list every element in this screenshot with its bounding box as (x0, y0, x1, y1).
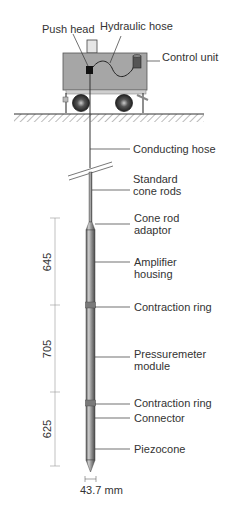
push-head (86, 66, 93, 74)
dim-625: 625 (41, 420, 53, 438)
label-piezocone: Piezocone (134, 443, 185, 455)
label-cone-rod-adaptor-2: adaptor (134, 224, 172, 236)
standard-cone-rods (89, 172, 92, 222)
label-cone-rod-adaptor-1: Cone rod (134, 212, 179, 224)
wheel-left (73, 95, 90, 112)
label-connector: Connector (134, 412, 185, 424)
label-control-unit: Control unit (162, 51, 218, 63)
dim-705: 705 (41, 340, 53, 358)
ground (14, 114, 204, 122)
label-pressuremeter-module-1: Pressuremeter (134, 348, 206, 360)
label-standard-cone-rods-1: Standard (133, 173, 178, 185)
push-head-top (87, 40, 97, 53)
label-contraction-ring-lower: Contraction ring (134, 397, 212, 409)
diagram-canvas: Push head Hydraulic hose Control unit Co… (0, 0, 225, 508)
dim-645: 645 (41, 253, 53, 271)
label-pressuremeter-module-2: module (134, 360, 170, 372)
label-hydraulic-hose: Hydraulic hose (100, 20, 173, 32)
label-contraction-ring-upper: Contraction ring (134, 301, 212, 313)
probe-body (86, 230, 95, 460)
wheel-right (116, 95, 133, 112)
label-amplifier-housing-1: Amplifier (134, 256, 177, 268)
label-conducting-hose: Conducting hose (133, 143, 216, 155)
rig-unit (63, 40, 148, 113)
label-amplifier-housing-2: housing (134, 268, 173, 280)
label-standard-cone-rods-2: cone rods (133, 185, 182, 197)
piezocone-tip (86, 460, 95, 472)
contraction-ring-upper (86, 302, 96, 308)
label-push-head: Push head (42, 23, 95, 35)
dim-diameter: 43.7 mm (80, 484, 123, 496)
contraction-ring-lower (86, 400, 96, 406)
